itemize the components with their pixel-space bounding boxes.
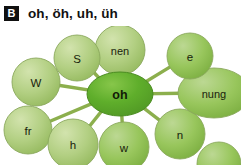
- exercise-header: B oh, öh, uh, üh: [0, 0, 241, 26]
- node-w-dn[interactable]: w: [99, 122, 149, 165]
- node-label-w-up: W: [31, 77, 42, 89]
- node-label-fr: fr: [24, 125, 31, 137]
- node-e[interactable]: e: [167, 33, 213, 79]
- node-nen[interactable]: nen: [95, 26, 145, 75]
- node-label-center: oh: [112, 88, 127, 102]
- node-n[interactable]: n: [155, 109, 205, 159]
- word-web-diagram: nenSWfrhwnnungeoh: [0, 26, 241, 165]
- node-label-w-dn: w: [119, 142, 129, 154]
- node-layer: nenSWfrhwnnungeoh: [4, 26, 241, 165]
- node-center-oh[interactable]: oh: [87, 72, 153, 116]
- node-label-nung: nung: [202, 88, 226, 100]
- word-web-canvas: nenSWfrhwnnungeoh: [0, 26, 241, 165]
- node-s[interactable]: S: [54, 35, 100, 81]
- node-label-nen: nen: [111, 45, 129, 57]
- node-fr[interactable]: fr: [4, 106, 52, 154]
- page-title: oh, öh, uh, üh: [28, 6, 118, 21]
- exercise-panel: B oh, öh, uh, üh: [0, 0, 241, 165]
- node-label-n: n: [177, 129, 183, 141]
- exercise-badge: B: [4, 6, 19, 21]
- node-label-h: h: [70, 139, 76, 151]
- node-label-e: e: [187, 51, 193, 63]
- node-h[interactable]: h: [48, 119, 98, 165]
- node-cut[interactable]: [197, 142, 241, 165]
- node-label-s: S: [73, 53, 81, 65]
- node-w-up[interactable]: W: [12, 58, 60, 106]
